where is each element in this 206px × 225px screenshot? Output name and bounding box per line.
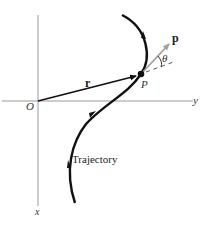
trajectory-diagram: O y x P r p θ Trajectory xyxy=(0,0,206,225)
trajectory-curve xyxy=(70,15,147,203)
momentum-vector-label: p xyxy=(172,31,179,45)
x-axis-label: x xyxy=(34,206,40,217)
origin-label: O xyxy=(26,100,34,112)
angle-theta-label: θ xyxy=(162,52,168,64)
trajectory-label: Trajectory xyxy=(72,153,118,165)
position-vector-label: r xyxy=(85,76,91,90)
point-p-dot xyxy=(138,71,145,78)
point-p-label: P xyxy=(140,78,148,90)
y-axis-label: y xyxy=(192,94,198,106)
